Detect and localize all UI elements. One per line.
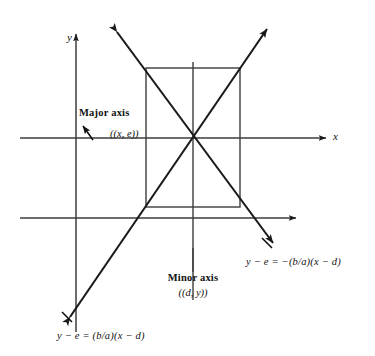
geometry-diagram-svg [0, 0, 375, 356]
positive-slope-equation-label: y − e = (b/a)(x − d) [57, 330, 145, 342]
major-axis-label: Major axis [79, 107, 130, 119]
figure-canvas: y x Major axis ((x, e)) Minor axis ((d, … [0, 0, 375, 356]
x-axis-label: x [333, 130, 338, 143]
y-axis-label: y [67, 31, 72, 44]
negative-slope-equation-label: y − e = −(b/a)(x − d) [246, 256, 341, 268]
major-axis-coordinate-label: ((x, e)) [110, 128, 139, 140]
minor-axis-label: Minor axis [160, 272, 226, 284]
minor-axis-coordinate-label: ((d, y)) [160, 287, 226, 299]
